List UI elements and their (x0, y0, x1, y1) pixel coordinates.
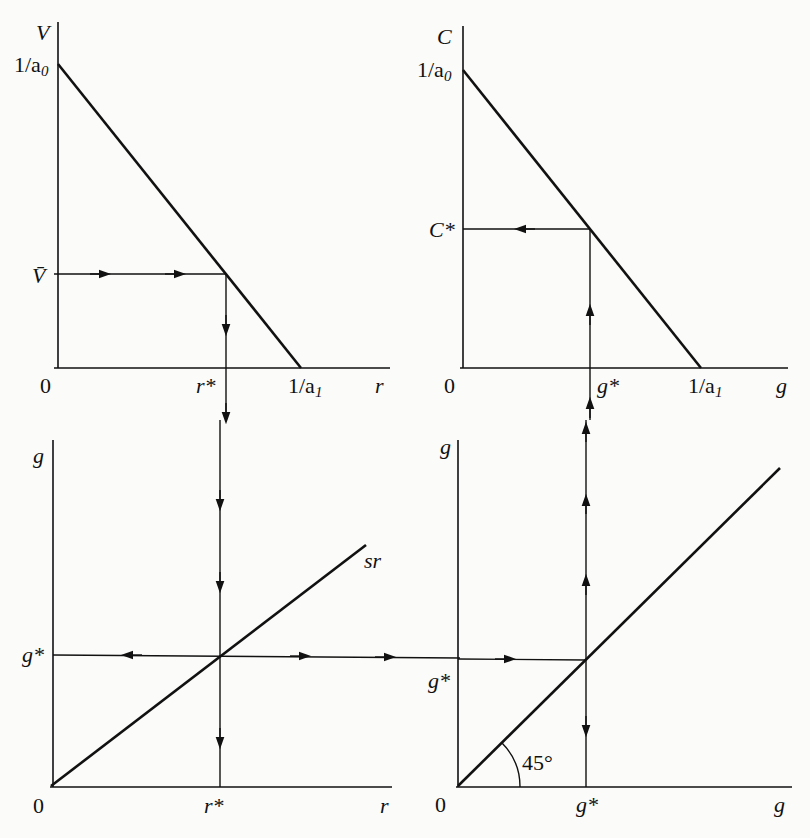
origin-label: 0 (40, 373, 51, 398)
y-axis-label: g (440, 434, 451, 459)
x-axis-label: g (776, 373, 787, 398)
r-star-label: r* (204, 793, 224, 818)
y-intercept-label: 1/a0 (417, 57, 452, 84)
y-intercept-label: 1/a0 (14, 52, 49, 79)
y-axis-label: g (33, 443, 44, 468)
y-axis-label: V (36, 20, 52, 45)
y-axis-label: C (437, 24, 452, 49)
sr-line (51, 545, 366, 786)
r-star-label: r* (196, 373, 216, 398)
g-star-label: g* (22, 642, 44, 667)
x-axis-label: g (774, 792, 785, 817)
g-star-label: g* (597, 373, 619, 398)
v-r-frontier-line (58, 64, 301, 368)
x-intercept-label: 1/a1 (288, 373, 322, 400)
45-degree-line (458, 468, 780, 786)
c-g-frontier-line (463, 70, 701, 368)
g-star-line (458, 659, 586, 660)
panel-bottom-left: g g* 0 r* r sr (22, 420, 460, 818)
x-intercept-label: 1/a1 (688, 373, 722, 400)
g-star-x-label: g* (576, 792, 598, 817)
sr-line-label: sr (364, 548, 382, 573)
four-quadrant-diagram: V 1/a0 V̄ 0 r* 1/a1 r C 1/a0 C* 0 g* 1/a… (0, 0, 810, 838)
angle-label: 45° (522, 750, 553, 775)
panel-top-right: C 1/a0 C* 0 g* 1/a1 g (417, 24, 788, 420)
g-star-line (53, 655, 460, 658)
v-bar-label: V̄ (32, 263, 48, 288)
angle-arc (502, 743, 520, 787)
origin-label: 0 (444, 373, 455, 398)
panel-bottom-right: g g* 0 g* g 45° (428, 420, 792, 817)
origin-label: 0 (33, 793, 44, 818)
panel-top-left: V 1/a0 V̄ 0 r* 1/a1 r (14, 20, 390, 420)
g-star-label: g* (428, 668, 450, 693)
c-star-label: C* (429, 217, 455, 242)
x-axis-label: r (375, 373, 384, 398)
x-axis-label: r (380, 793, 389, 818)
origin-label: 0 (435, 792, 446, 817)
